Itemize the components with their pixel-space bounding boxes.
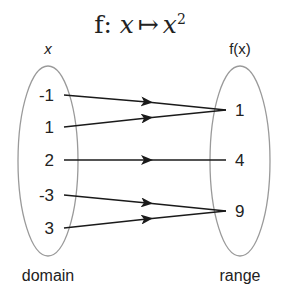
domain-value: -3 (39, 186, 54, 205)
arrow-1-to-1 (64, 110, 226, 127)
range-value: 9 (235, 202, 244, 221)
range-value: 1 (235, 101, 244, 120)
arrow-3-to-9 (64, 211, 226, 228)
mapping-arrows (64, 95, 226, 228)
range-value: 4 (235, 151, 244, 170)
function-title: f: x↦x2 (94, 10, 186, 39)
domain-header: x (43, 40, 52, 57)
domain-value: 1 (45, 118, 54, 137)
arrow-neg3-to-9 (64, 195, 226, 211)
domain-value: -1 (39, 86, 54, 105)
range-caption: range (220, 267, 261, 284)
domain-caption: domain (22, 267, 74, 284)
domain-value: 2 (45, 151, 54, 170)
mapping-diagram: f: x↦x2 x f(x) -1 1 2 -3 3 1 4 9 domain … (0, 0, 281, 306)
range-header: f(x) (229, 40, 251, 57)
arrow-neg1-to-1 (64, 95, 226, 110)
domain-value: 3 (45, 219, 54, 238)
